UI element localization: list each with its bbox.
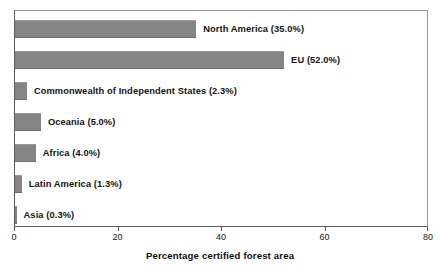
bars-layer: North America (35.0%)EU (52.0%)Commonwea… [15, 11, 427, 226]
x-axis-ticks: 020406080 [14, 227, 428, 247]
bar [15, 51, 284, 69]
bar-row: Commonwealth of Independent States (2.3%… [15, 77, 427, 108]
x-tick-label: 0 [11, 232, 16, 242]
x-tick-label: 60 [319, 232, 329, 242]
bar [15, 175, 22, 193]
x-tick-mark [427, 227, 428, 231]
x-tick-mark [221, 227, 222, 231]
bar-row: Africa (4.0%) [15, 139, 427, 170]
x-tick-mark [118, 227, 119, 231]
bar-label: EU (52.0%) [291, 51, 340, 69]
bar-label: Asia (0.3%) [24, 206, 75, 224]
bar [15, 144, 36, 162]
bar-label: North America (35.0%) [203, 20, 304, 38]
bar-row: Latin America (1.3%) [15, 170, 427, 201]
bar-label: Africa (4.0%) [43, 144, 101, 162]
bar-label: Oceania (5.0%) [48, 113, 116, 131]
bar-label: Commonwealth of Independent States (2.3%… [34, 82, 237, 100]
x-tick-label: 20 [112, 232, 122, 242]
bar-row: EU (52.0%) [15, 46, 427, 77]
x-tick-label: 40 [216, 232, 226, 242]
bar-row: Oceania (5.0%) [15, 108, 427, 139]
bar [15, 82, 27, 100]
bar [15, 20, 196, 38]
bar-label: Latin America (1.3%) [29, 175, 122, 193]
x-axis-title: Percentage certified forest area [0, 250, 440, 261]
bar-row: North America (35.0%) [15, 15, 427, 46]
x-tick-label: 80 [423, 232, 433, 242]
bar-chart: North America (35.0%)EU (52.0%)Commonwea… [0, 0, 440, 270]
plot-area: North America (35.0%)EU (52.0%)Commonwea… [14, 10, 428, 227]
bar [15, 113, 41, 131]
bar [15, 206, 17, 224]
x-tick-mark [325, 227, 326, 231]
x-tick-mark [14, 227, 15, 231]
